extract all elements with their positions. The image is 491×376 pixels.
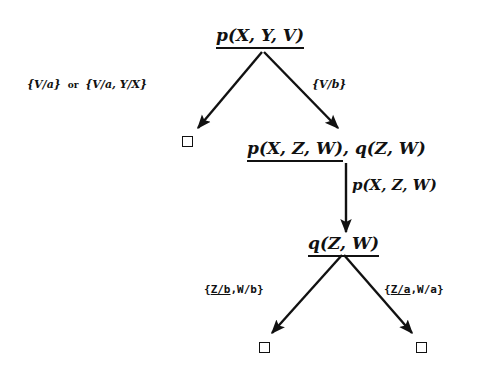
node3-selected-literal: q(Z, W) [308, 233, 379, 257]
root-selected-literal: p(X, Y, V) [216, 25, 304, 49]
edge-label-root-left: {V/a} or {V/a, Y/X} [27, 78, 147, 92]
node3-goal: q(Z, W) [308, 233, 379, 253]
edge-label-root-right: {V/b} [312, 78, 346, 92]
brace-open: { [384, 283, 391, 296]
edge-label-node3-left: {Z/b,W/b} [204, 283, 264, 297]
binding-rest-wa: ,W/a} [411, 283, 444, 296]
substitution-va: {V/a} [27, 78, 61, 91]
substitution-va-yx: {V/a, Y/X} [85, 78, 147, 91]
brace-open: { [204, 283, 211, 296]
node2-rest-literal: , q(Z, W) [343, 138, 426, 158]
edge-root-left-arrow [198, 52, 262, 128]
edge-label-node3-right: {Z/a,W/a} [384, 283, 444, 297]
node2-goal: p(X, Z, W), q(Z, W) [247, 138, 426, 158]
empty-clause-box-bottom-left [259, 342, 270, 353]
edge-label-node2-node3: p(X, Z, W) [352, 176, 437, 194]
or-connector: or [68, 80, 79, 90]
substitution-vb: {V/b} [312, 78, 346, 91]
underlined-binding-za: Z/a [391, 283, 411, 296]
binding-rest-wb: ,W/b} [231, 283, 264, 296]
node2-selected-literal: p(X, Z, W) [247, 138, 343, 162]
empty-clause-box-left [182, 136, 193, 147]
underlined-binding-zb: Z/b [211, 283, 231, 296]
edge-node3-left-arrow [272, 255, 342, 333]
empty-clause-box-bottom-right [416, 342, 427, 353]
root-goal: p(X, Y, V) [216, 25, 304, 45]
